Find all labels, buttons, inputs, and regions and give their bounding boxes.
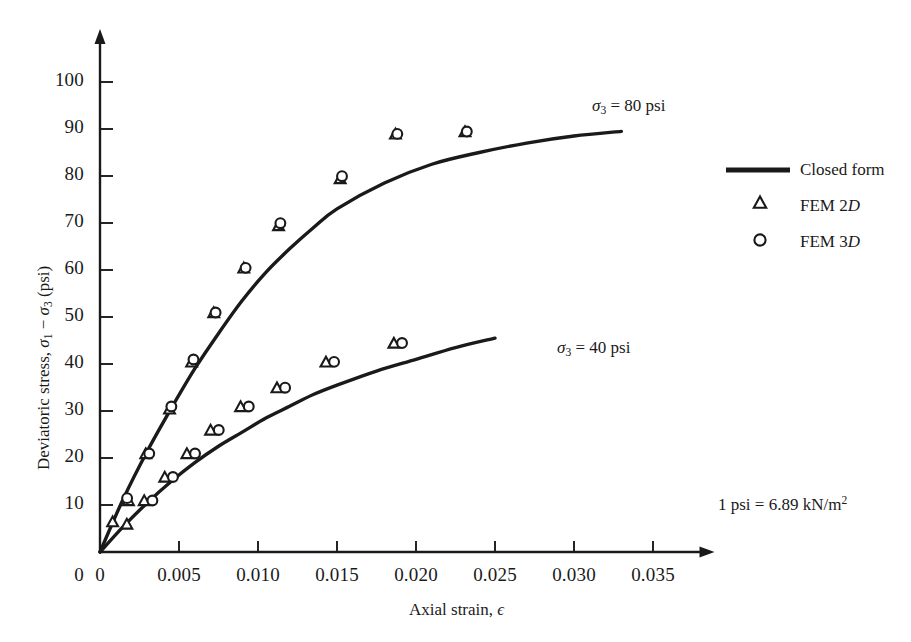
data-point-circle [189, 355, 199, 365]
legend-fem3d-text: FEM 3 [800, 232, 848, 251]
legend-label-fem-2d: FEM 2D [800, 196, 860, 216]
data-point-circle [211, 308, 221, 318]
y-axis-tick-label: 80 [24, 163, 84, 185]
y-axis-tick-label: 20 [24, 445, 84, 467]
legend-label-closed-form: Closed form [800, 160, 885, 180]
units-footnote: 1 psi = 6.89 kN/m2 [718, 494, 847, 515]
x-axis-epsilon: ϵ [497, 600, 504, 619]
legend-fem2d-italic: D [848, 196, 860, 215]
x-axis-tick-label: 0.010 [225, 564, 291, 586]
x-axis-tick-label: 0.020 [383, 564, 449, 586]
annotation-sigma3-80: σ3 = 80 psi [592, 96, 665, 117]
units-footnote-exponent: 2 [841, 494, 847, 507]
data-point-circle [214, 425, 224, 435]
data-point-circle [280, 383, 290, 393]
plot-area [0, 0, 911, 642]
data-curve [100, 338, 495, 552]
data-point-circle [168, 472, 178, 482]
annotation-sigma3-40: σ3 = 40 psi [557, 338, 630, 359]
figure-deviatoric-stress-vs-axial-strain: Deviatoric stress, σ1 − σ3 (psi) Axial s… [0, 0, 911, 642]
y-axis-tick-label: 100 [24, 69, 84, 91]
data-point-circle [392, 129, 402, 139]
legend-fem2d-text: FEM 2 [800, 196, 848, 215]
data-point-circle [462, 127, 472, 137]
y-axis-tick-label: 60 [24, 257, 84, 279]
y-axis-sigma1: σ [34, 339, 53, 347]
y-axis-sigma1-sub: 1 [42, 334, 55, 340]
annotation-80-text: = 80 psi [606, 96, 665, 115]
legend-circle-marker [754, 234, 765, 245]
y-axis-arrowhead [95, 29, 106, 44]
x-axis-tick-label: 0.015 [304, 564, 370, 586]
annotation-40-text: = 40 psi [571, 338, 630, 357]
data-point-circle [397, 338, 407, 348]
units-footnote-text: 1 psi = 6.89 kN/m [718, 495, 841, 514]
y-axis-tick-label: 40 [24, 351, 84, 373]
data-point-circle [329, 357, 339, 367]
data-point-circle [275, 218, 285, 228]
x-axis-title: Axial strain, ϵ [409, 600, 504, 620]
data-point-circle [144, 449, 154, 459]
data-point-circle [244, 402, 254, 412]
y-axis-tick-label: 50 [24, 304, 84, 326]
data-point-circle [241, 263, 251, 273]
data-point-circle [148, 496, 158, 506]
x-axis-tick-label: 0.030 [541, 564, 607, 586]
legend-label-fem-3d: FEM 3D [800, 232, 860, 252]
y-axis-tick-label: 30 [24, 398, 84, 420]
data-point-circle [190, 449, 200, 459]
data-point-circle [337, 171, 347, 181]
x-axis-arrowhead [700, 547, 715, 558]
x-axis-tick-label: 0.035 [620, 564, 686, 586]
legend-triangle-marker [754, 196, 766, 207]
data-curve [100, 131, 621, 552]
data-point-circle [166, 402, 176, 412]
x-axis-tick-label: 0.005 [146, 564, 212, 586]
data-point-circle [122, 493, 132, 503]
y-axis-tick-label: 10 [24, 492, 84, 514]
axis-origin-label: 0 [24, 564, 84, 586]
x-axis-title-text: Axial strain, [409, 600, 497, 619]
legend-fem3d-italic: D [848, 232, 860, 251]
y-axis-tick-label: 70 [24, 210, 84, 232]
y-axis-tick-label: 90 [24, 116, 84, 138]
x-axis-tick-label: 0.025 [462, 564, 528, 586]
